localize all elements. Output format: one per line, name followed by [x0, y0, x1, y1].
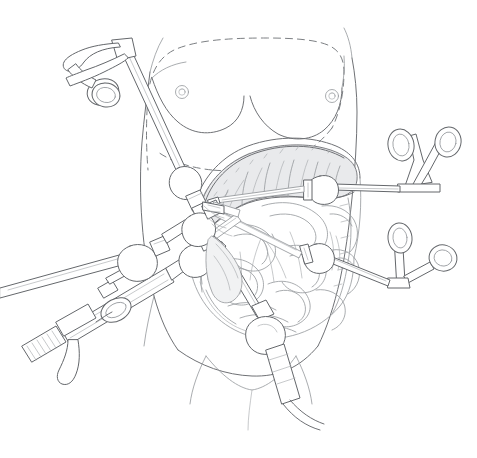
instrument-right-lower-forceps[interactable]: [211, 208, 460, 288]
handle-ring-right-upper: [385, 127, 416, 163]
instrument-upper-left-grasper[interactable]: [63, 38, 216, 236]
trocar-right-lateral: [304, 175, 339, 204]
corrugated-tubing: [266, 344, 300, 404]
nipple-left: [326, 90, 339, 103]
illustration-canvas: Laparoscopic abdominal surgery — instrum…: [0, 0, 477, 458]
eyepiece-collar: [22, 326, 66, 362]
nipple-right: [176, 86, 189, 99]
handle-ring-lower-right-upper: [386, 222, 413, 254]
trocar-right-lower: [300, 244, 334, 274]
laparoscopic-surgery-illustration: Laparoscopic abdominal surgery — instrum…: [0, 0, 477, 458]
breasts: [152, 56, 344, 139]
